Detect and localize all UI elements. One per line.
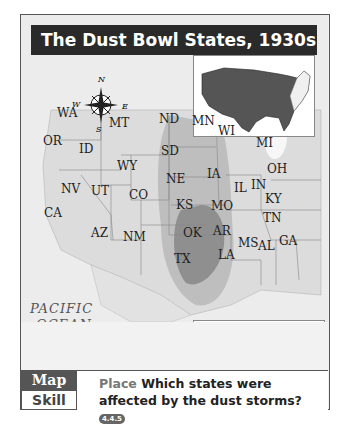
compass-e: E xyxy=(122,102,128,111)
map-title: The Dust Bowl States, 1930s xyxy=(31,25,317,55)
skill-badge: Skill xyxy=(21,390,77,410)
state-label-mi: MI xyxy=(256,136,273,150)
state-label-mn: MN xyxy=(192,114,215,128)
state-label-ms: MS xyxy=(238,236,259,250)
ocean-label: PACIFIC OCEAN xyxy=(30,301,93,322)
map-figure: The Dust Bowl States, 1930s N S W E WAOR… xyxy=(20,14,330,410)
state-label-wy: WY xyxy=(117,159,137,173)
question-keyword: Place xyxy=(99,376,137,391)
state-label-ia: IA xyxy=(207,167,220,181)
state-label-al: AL xyxy=(258,239,275,253)
state-label-ga: GA xyxy=(279,234,297,248)
map-skill-box: Map Skill Place Which states were affect… xyxy=(21,370,328,411)
state-label-in: IN xyxy=(251,178,266,192)
state-label-mo: MO xyxy=(211,199,233,213)
state-label-nd: ND xyxy=(159,112,179,126)
state-label-id: ID xyxy=(79,142,93,156)
compass-n: N xyxy=(98,75,105,84)
state-label-la: LA xyxy=(218,248,235,262)
state-label-nv: NV xyxy=(61,182,80,196)
map-legend: Dust Bowl Other areas damaged by dust st… xyxy=(193,320,325,322)
state-label-ks: KS xyxy=(176,198,193,212)
state-label-co: CO xyxy=(129,188,148,202)
state-label-ca: CA xyxy=(44,206,62,220)
standard-badge: 4.4.5 xyxy=(99,414,125,424)
skill-question: Place Which states were affected by the … xyxy=(99,375,319,425)
state-label-ky: KY xyxy=(265,192,282,206)
state-label-or: OR xyxy=(43,134,62,148)
state-label-ar: AR xyxy=(213,224,231,238)
state-label-tn: TN xyxy=(263,211,282,225)
map-area: The Dust Bowl States, 1930s N S W E WAOR… xyxy=(21,15,328,322)
map-badge: Map xyxy=(21,371,77,390)
state-label-sd: SD xyxy=(161,144,179,158)
ocean-label-line2: OCEAN xyxy=(30,317,93,322)
state-label-wa: WA xyxy=(57,106,77,120)
state-label-az: AZ xyxy=(91,226,108,240)
state-label-ut: UT xyxy=(91,184,109,198)
state-label-wi: WI xyxy=(218,124,235,138)
state-label-ok: OK xyxy=(183,226,202,240)
state-label-tx: TX xyxy=(174,252,191,266)
state-label-mt: MT xyxy=(109,116,129,130)
state-label-il: IL xyxy=(234,181,247,195)
state-label-ne: NE xyxy=(166,172,185,186)
state-label-nm: NM xyxy=(123,230,146,244)
ocean-label-line1: PACIFIC xyxy=(30,301,93,317)
state-label-oh: OH xyxy=(267,162,287,176)
compass-s: S xyxy=(96,125,101,134)
